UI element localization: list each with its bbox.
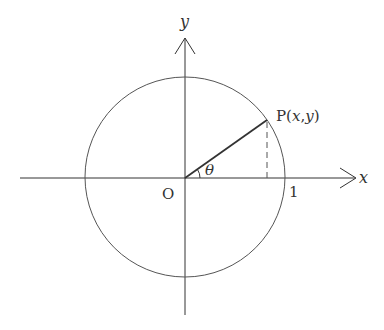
- angle-arc: [198, 170, 201, 179]
- unit-mark-label: 1: [289, 183, 299, 201]
- y-axis-label: y: [179, 12, 190, 31]
- radius-line: [185, 120, 267, 178]
- unit-circle-diagram: y x O θ 1 P(x,y): [0, 0, 384, 330]
- angle-label: θ: [205, 161, 214, 179]
- point-label-prefix: P(: [276, 107, 292, 125]
- origin-label: O: [162, 185, 174, 203]
- point-label: P(x,y): [276, 107, 320, 125]
- point-label-suffix: ): [314, 107, 320, 125]
- x-axis-label: x: [359, 168, 368, 187]
